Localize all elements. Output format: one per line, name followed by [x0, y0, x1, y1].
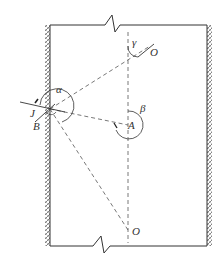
label-B: B [33, 120, 40, 132]
label-alpha: α [56, 83, 62, 95]
label-O-top: O [150, 46, 158, 58]
beta-arrow-icon [114, 123, 117, 128]
label-J: J [30, 107, 36, 119]
bottom-boundary-break [50, 236, 207, 253]
right-wall-hatch [207, 25, 212, 246]
label-beta: β [139, 102, 146, 114]
left-wall-hatch [45, 25, 50, 246]
label-O-bottom: O [132, 225, 140, 237]
direction-arrow-icon [35, 99, 38, 103]
label-gamma: γ [132, 36, 137, 48]
label-A: A [127, 119, 135, 131]
tunnel-geometry-diagram: α β γ J B A O O [0, 0, 224, 267]
line-J-to-O-top [50, 46, 150, 109]
top-boundary-break [50, 15, 207, 32]
